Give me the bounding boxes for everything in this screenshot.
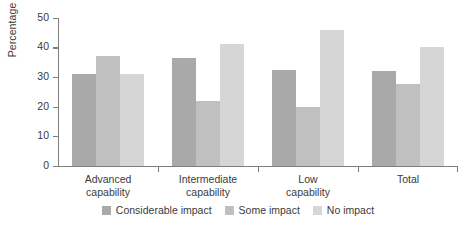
x-tick-label-line1: Total	[348, 173, 468, 186]
legend-item-no-impact[interactable]: No impact	[313, 204, 374, 216]
legend-item-considerable-impact[interactable]: Considerable impact	[102, 204, 212, 216]
bar-chart: Percentage 0 10 20 30 40 50	[0, 0, 476, 236]
y-tick-label-0: 0	[43, 159, 49, 171]
legend-item-some-impact[interactable]: Some impact	[225, 204, 300, 216]
y-tick-10: 10	[53, 136, 58, 137]
y-tick-40: 40	[53, 47, 58, 48]
y-tick-label-20: 20	[37, 100, 49, 112]
chart-legend: Considerable impact Some impact No impac…	[0, 204, 476, 216]
legend-label-no-impact: No impact	[327, 204, 374, 216]
legend-swatch-some-impact	[225, 206, 234, 215]
y-axis-line	[58, 18, 59, 167]
legend-label-considerable-impact: Considerable impact	[116, 204, 212, 216]
y-tick-0: 0	[53, 166, 58, 167]
bar-total-no-impact	[420, 47, 444, 165]
y-tick-label-10: 10	[37, 129, 49, 141]
x-separator-4	[457, 167, 458, 172]
legend-swatch-no-impact	[313, 206, 322, 215]
y-tick-50: 50	[53, 18, 58, 19]
y-tick-20: 20	[53, 107, 58, 108]
bar-total-considerable-impact	[372, 71, 396, 166]
bar-intermediate-considerable-impact	[172, 58, 196, 166]
x-tick-label-line2: capability	[248, 186, 368, 199]
y-tick-30: 30	[53, 77, 58, 78]
bar-intermediate-some-impact	[196, 101, 220, 166]
y-tick-label-30: 30	[37, 70, 49, 82]
y-axis-title: Percentage	[6, 0, 20, 80]
bar-total-some-impact	[396, 84, 420, 165]
bar-low-no-impact	[320, 30, 344, 166]
x-separator-1	[158, 167, 159, 172]
y-tick-label-50: 50	[37, 11, 49, 23]
bar-intermediate-no-impact	[220, 44, 244, 165]
bar-low-some-impact	[296, 107, 320, 166]
legend-swatch-considerable-impact	[102, 206, 111, 215]
x-separator-3	[358, 167, 359, 172]
plot-area: 0 10 20 30 40 50	[58, 18, 458, 167]
bar-advanced-some-impact	[96, 56, 120, 166]
legend-label-some-impact: Some impact	[239, 204, 300, 216]
y-tick-label-40: 40	[37, 40, 49, 52]
bar-advanced-considerable-impact	[72, 74, 96, 166]
x-separator-2	[258, 167, 259, 172]
bar-low-considerable-impact	[272, 70, 296, 166]
x-tick-label-total: Total	[348, 173, 468, 186]
bar-advanced-no-impact	[120, 74, 144, 166]
